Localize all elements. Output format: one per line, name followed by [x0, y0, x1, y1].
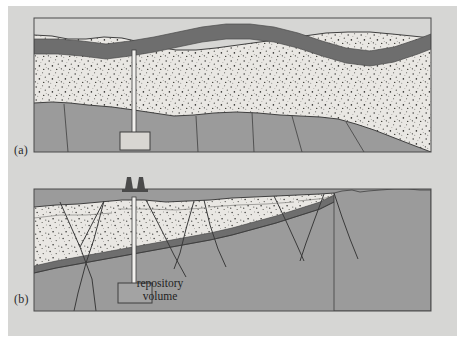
- panel-a-geology: [34, 18, 431, 152]
- repository-volume-caption: repository volume: [104, 277, 216, 302]
- repository-caption-line2: volume: [104, 290, 216, 303]
- borehole-shaft-b: [132, 197, 136, 285]
- derrick-icon-left: [122, 177, 136, 192]
- figure-root: (a) (b) repository volume: [0, 0, 465, 342]
- derrick-icon-right: [134, 177, 148, 192]
- basement-uplift-b: [334, 189, 431, 311]
- panel-b-geology: [34, 189, 431, 311]
- panel-b-label: (b): [14, 292, 29, 307]
- panel-a-label: (a): [14, 143, 28, 158]
- panel-a-diagram: [8, 6, 457, 166]
- repository-volume-box-a: [120, 132, 150, 150]
- drilling-derricks-b: [122, 177, 148, 192]
- borehole-shaft-a: [132, 50, 136, 134]
- panel-b-diagram: [8, 171, 457, 336]
- figure-plate: [8, 6, 457, 336]
- repository-caption-line1: repository: [104, 277, 216, 290]
